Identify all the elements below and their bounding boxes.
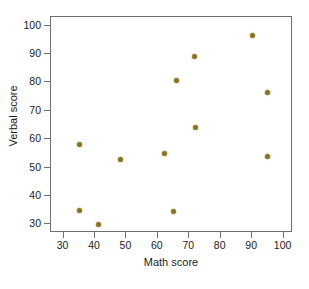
x-tick-mark	[283, 232, 284, 238]
x-tick-mark	[125, 232, 126, 238]
y-tick-mark	[44, 167, 50, 168]
y-tick-mark	[44, 53, 50, 54]
data-point	[174, 78, 179, 83]
x-tick-mark	[220, 232, 221, 238]
data-point	[265, 154, 270, 159]
data-point	[171, 209, 176, 214]
x-tick-label: 100	[270, 240, 296, 251]
x-tick-label: 30	[50, 240, 76, 251]
x-tick-label: 70	[175, 240, 201, 251]
data-point	[77, 208, 82, 213]
data-point	[250, 33, 255, 38]
data-point	[265, 90, 270, 95]
data-point	[77, 142, 82, 147]
data-point	[192, 54, 197, 59]
y-tick-label: 100	[15, 20, 41, 30]
x-tick-label: 90	[238, 240, 264, 251]
y-tick-mark	[44, 195, 50, 196]
plot-frame	[50, 16, 292, 232]
y-axis-label: Verbal score	[7, 66, 19, 166]
y-tick-mark	[44, 81, 50, 82]
x-tick-mark	[94, 232, 95, 238]
y-tick-mark	[44, 25, 50, 26]
x-tick-mark	[251, 232, 252, 238]
y-tick-label: 30	[15, 218, 41, 228]
data-point	[96, 222, 101, 227]
y-tick-label: 90	[15, 48, 41, 58]
y-tick-mark	[44, 110, 50, 111]
x-tick-label: 50	[112, 240, 138, 251]
y-tick-mark	[44, 223, 50, 224]
x-axis-label: Math score	[50, 256, 292, 268]
scatter-plot-figure: 30405060708090100 30405060708090100 Math…	[0, 0, 309, 289]
y-tick-label: 40	[15, 190, 41, 200]
data-point	[118, 157, 123, 162]
x-tick-label: 40	[81, 240, 107, 251]
data-points-layer	[51, 17, 291, 231]
x-tick-mark	[157, 232, 158, 238]
y-tick-mark	[44, 138, 50, 139]
x-tick-label: 80	[207, 240, 233, 251]
x-tick-label: 60	[144, 240, 170, 251]
x-tick-mark	[63, 232, 64, 238]
data-point	[193, 125, 198, 130]
x-tick-mark	[188, 232, 189, 238]
data-point	[162, 151, 167, 156]
